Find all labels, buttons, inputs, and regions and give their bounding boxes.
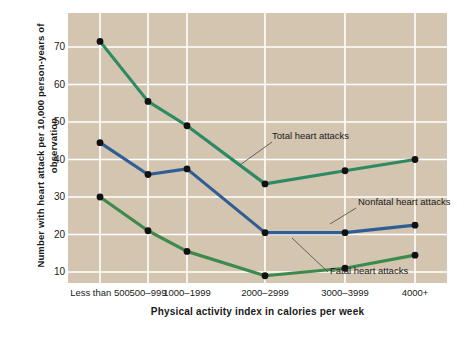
data-point-0-3 xyxy=(262,180,269,187)
data-point-2-2 xyxy=(184,248,191,255)
y-axis-tick-labels: 70605040302010 xyxy=(40,0,65,290)
data-point-1-1 xyxy=(145,171,152,178)
y-axis-tick-30: 30 xyxy=(41,191,65,202)
data-point-1-4 xyxy=(342,229,349,236)
x-axis-tick-2: 1000–1999 xyxy=(163,287,211,298)
y-axis-tick-60: 60 xyxy=(41,79,65,90)
leader-line-nonfatal xyxy=(330,208,356,224)
y-axis-tick-50: 50 xyxy=(41,116,65,127)
data-point-1-2 xyxy=(184,165,191,172)
annotation-fatal-heart-attacks: Fatal heart attacks xyxy=(330,265,408,276)
data-point-2-0 xyxy=(97,194,104,201)
x-axis-title: Physical activity index in calories per … xyxy=(68,306,447,317)
y-axis-tick-70: 70 xyxy=(41,41,65,52)
data-point-0-0 xyxy=(97,38,104,45)
chart-figure: Number with heart attack per 10,000 pers… xyxy=(0,0,467,341)
y-axis-tick-40: 40 xyxy=(41,154,65,165)
plot-canvas xyxy=(68,13,447,283)
x-axis-tick-5: 4000+ xyxy=(402,287,429,298)
leader-line-total xyxy=(240,142,272,165)
x-axis-tick-0: Less than 500 xyxy=(70,287,130,298)
data-point-2-3 xyxy=(262,272,269,279)
data-point-2-1 xyxy=(145,227,152,234)
y-axis-tick-20: 20 xyxy=(41,229,65,240)
leader-line-fatal xyxy=(292,238,328,272)
y-axis-title-container: Number with heart attack per 10,000 pers… xyxy=(0,0,40,290)
x-axis-tick-labels: Less than 500500–9991000–19992000–299930… xyxy=(0,287,467,303)
data-point-1-3 xyxy=(262,229,269,236)
data-point-1-5 xyxy=(412,222,419,229)
x-axis-tick-3: 2000–2999 xyxy=(241,287,289,298)
data-point-2-5 xyxy=(412,252,419,259)
data-point-1-0 xyxy=(97,139,104,146)
x-axis-tick-4: 3000–3999 xyxy=(321,287,369,298)
plot-area xyxy=(68,13,447,283)
data-point-0-2 xyxy=(184,122,191,129)
y-axis-tick-10: 10 xyxy=(41,266,65,277)
x-axis-tick-1: 500–999 xyxy=(130,287,167,298)
annotation-nonfatal-heart-attacks: Nonfatal heart attacks xyxy=(358,196,450,207)
data-point-0-1 xyxy=(145,98,152,105)
data-point-0-4 xyxy=(342,167,349,174)
annotation-total-heart-attacks: Total heart attacks xyxy=(272,130,349,141)
data-point-0-5 xyxy=(412,156,419,163)
